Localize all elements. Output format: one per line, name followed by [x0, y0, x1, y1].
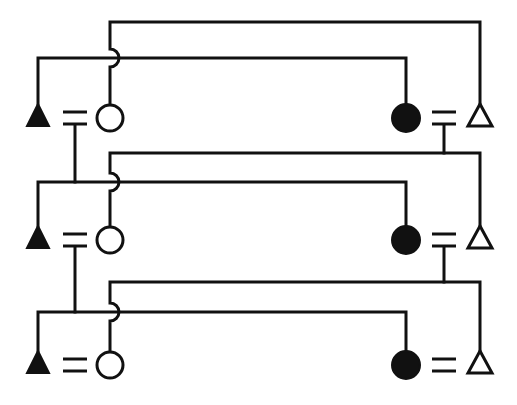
open-triangle-icon [468, 351, 492, 373]
open-circle-icon [97, 227, 123, 253]
filled-triangle-icon [27, 351, 49, 373]
open-triangle-icon [468, 104, 492, 126]
open-circle-icon [97, 352, 123, 378]
filled-circle-icon [392, 351, 420, 379]
connection-line-inner [38, 58, 406, 105]
connection-line-inner [38, 182, 406, 227]
filled-circle-icon [392, 104, 420, 132]
connection-line-outer [110, 153, 480, 227]
open-circle-icon [97, 105, 123, 131]
connection-line-inner [38, 312, 406, 352]
open-triangle-icon [468, 226, 492, 248]
connection-line-outer [110, 22, 480, 105]
filled-triangle-icon [27, 226, 49, 248]
connection-line-outer [110, 282, 480, 352]
filled-circle-icon [392, 226, 420, 254]
diagram-canvas [0, 0, 517, 405]
filled-triangle-icon [27, 104, 49, 126]
